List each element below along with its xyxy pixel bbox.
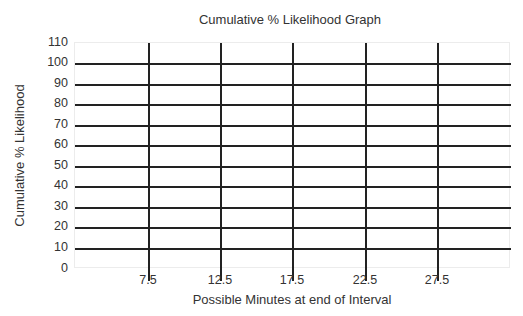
x-tick-label: 27.5	[417, 273, 457, 287]
x-tick-label: 17.5	[272, 273, 312, 287]
y-axis-label: Cumulative % Likelihood	[12, 81, 27, 231]
y-tick-label: 20	[32, 219, 68, 233]
gridline-x-27.5	[437, 43, 439, 281]
y-tick-label: 90	[32, 76, 68, 90]
x-axis-label: Possible Minutes at end of Interval	[74, 292, 510, 307]
y-tick-label: 110	[32, 35, 68, 49]
chart-title: Cumulative % Likelihood Graph	[0, 12, 523, 27]
y-tick-label: 50	[32, 158, 68, 172]
gridline-x-7.5	[148, 43, 150, 281]
gridline-x-17.5	[292, 43, 294, 281]
x-tick-label: 7.5	[128, 273, 168, 287]
gridline-x-12.5	[220, 43, 222, 281]
x-tick-label: 12.5	[200, 273, 240, 287]
y-tick-label: 80	[32, 96, 68, 110]
gridline-x-22.5	[365, 43, 367, 281]
y-tick-label: 100	[32, 55, 68, 69]
y-tick-label: 30	[32, 199, 68, 213]
y-tick-label: 40	[32, 178, 68, 192]
x-tick-label: 22.5	[345, 273, 385, 287]
y-tick-label: 70	[32, 117, 68, 131]
plot-area	[74, 42, 510, 268]
y-tick-label: 0	[32, 261, 68, 275]
y-tick-label: 60	[32, 137, 68, 151]
y-tick-label: 10	[32, 240, 68, 254]
